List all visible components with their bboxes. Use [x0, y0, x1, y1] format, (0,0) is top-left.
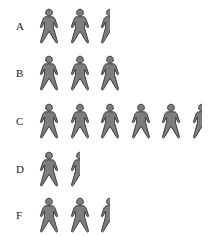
- pictograph-chart: ABCDF: [0, 0, 220, 236]
- person-icon: [98, 8, 110, 44]
- person-icon: [98, 197, 110, 233]
- person-icon: [98, 55, 122, 91]
- person-icon: [68, 8, 92, 44]
- person-icon: [37, 55, 61, 91]
- person-icon: [68, 151, 80, 187]
- category-label: D: [16, 163, 26, 175]
- chart-row: F: [0, 195, 220, 235]
- chart-row: B: [0, 53, 220, 93]
- person-icon: [190, 103, 202, 139]
- person-icon: [37, 103, 61, 139]
- category-label: A: [16, 20, 26, 32]
- person-icon: [68, 197, 92, 233]
- person-icon: [68, 103, 92, 139]
- person-icon: [37, 8, 61, 44]
- category-label: B: [16, 67, 26, 79]
- person-icon: [37, 151, 61, 187]
- person-icon: [37, 197, 61, 233]
- person-icon: [98, 103, 122, 139]
- category-label: F: [16, 209, 26, 221]
- chart-row: A: [0, 6, 220, 46]
- category-label: C: [16, 115, 26, 127]
- person-icon: [68, 55, 92, 91]
- person-icon: [129, 103, 153, 139]
- person-icon: [159, 103, 183, 139]
- chart-row: D: [0, 149, 220, 189]
- chart-row: C: [0, 101, 220, 141]
